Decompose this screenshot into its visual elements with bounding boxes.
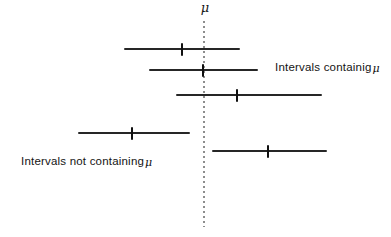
mu-symbol-inline: μ [372,62,380,75]
label-containing-text: Intervals containig [275,61,372,73]
sample-mean-tick [131,127,134,140]
confidence-interval-containing-mu [176,94,322,96]
confidence-interval-containing-mu [124,48,240,50]
mu-symbol-inline: μ [144,156,152,169]
label-not-containing-text: Intervals not containing [21,155,144,167]
label-intervals-not-containing-mu: Intervals not containingμ [21,155,152,168]
mu-dotted-line [203,21,205,227]
sample-mean-tick [181,43,184,56]
sample-mean-tick [202,64,205,77]
confidence-interval-diagram: μ Intervals containigμ Intervals not con… [0,0,391,237]
sample-mean-tick [267,145,270,158]
confidence-interval-containing-mu [149,69,258,71]
confidence-interval-not-containing-mu [212,150,327,152]
label-intervals-containing-mu: Intervals containigμ [275,61,380,74]
mu-axis-label: μ [198,1,212,15]
sample-mean-tick [236,89,239,102]
confidence-interval-not-containing-mu [78,132,190,134]
